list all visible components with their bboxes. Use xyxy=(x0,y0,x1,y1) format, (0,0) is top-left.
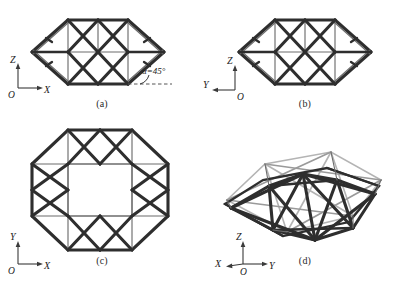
panel-b-side-view: Z Y O (b) xyxy=(203,0,407,124)
panel-c-top-view: Y X O (c) xyxy=(0,124,204,282)
axis-label-vertical: Z xyxy=(227,55,233,66)
axis-z-arrowhead xyxy=(16,63,21,69)
figure-panel-grid: α=45° Z X O (a) xyxy=(0,0,407,282)
octagon-outline-c xyxy=(32,130,168,250)
axis-z-arrowhead xyxy=(233,65,238,71)
inner-square-c xyxy=(32,130,168,250)
axis-triad-b: Z Y O xyxy=(203,55,244,102)
axis-label-horizontal: Y xyxy=(203,79,210,90)
bay-bracing-c xyxy=(32,130,168,250)
alpha-angle-label: α=45° xyxy=(142,66,166,76)
angle-arc xyxy=(140,75,149,84)
panel-d-isometric-view: Z Y X O (d) xyxy=(203,124,407,282)
panel-a-caption: (a) xyxy=(0,98,204,109)
axis-label-origin: O xyxy=(8,266,15,276)
iso-front-members-d xyxy=(231,174,375,240)
axis-x-arrowhead xyxy=(37,86,43,91)
panel-b-caption: (b) xyxy=(203,98,407,109)
axis-label-vertical: Z xyxy=(10,54,16,65)
axis-label-origin: O xyxy=(240,267,247,277)
axis-label-horizontal: X xyxy=(43,84,51,95)
panel-c-caption: (c) xyxy=(0,255,204,266)
axis-label-vertical: Z xyxy=(236,231,242,242)
axis-triad-d: Z Y X O xyxy=(214,231,276,277)
axis-y-arrowhead xyxy=(212,88,218,93)
axis-label-vertical: Y xyxy=(10,231,17,242)
panel-d-caption: (d) xyxy=(203,255,407,266)
panel-a-front-view: α=45° Z X O (a) xyxy=(0,0,204,124)
axis-triad-c: Y X O xyxy=(8,231,51,276)
axis-y-arrowhead xyxy=(16,241,21,247)
